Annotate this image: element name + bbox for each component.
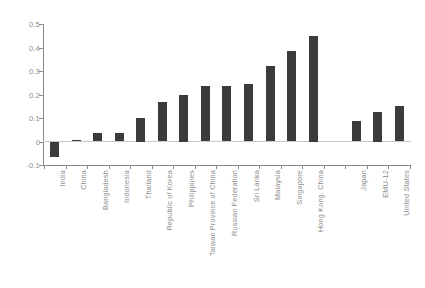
y-axis-tick-mark (39, 118, 43, 119)
bar (179, 95, 188, 142)
bar-slot (345, 24, 367, 165)
x-axis-tick-label: Japan (359, 170, 368, 191)
bar (158, 102, 167, 142)
bar (93, 133, 102, 141)
bar-slot (302, 24, 324, 165)
x-axis-tick-label: EMU-12 (381, 170, 390, 198)
x-axis-tick-mark (130, 165, 131, 169)
bar (201, 86, 210, 141)
x-axis-tick-mark (324, 165, 325, 169)
bar (287, 51, 296, 141)
x-axis-tick-mark (238, 165, 239, 169)
x-axis-tick-label: Philippines (187, 170, 196, 207)
y-axis-tick-mark (39, 95, 43, 96)
bar (266, 66, 275, 141)
bar (50, 142, 59, 157)
x-axis-line (43, 165, 411, 166)
y-axis-tick-label: 0 (0, 137, 40, 146)
bar-slot (259, 24, 281, 165)
x-axis-tick-mark (410, 165, 411, 169)
x-axis-tick-label: Russian Federation (230, 170, 239, 236)
bar (352, 121, 361, 142)
y-axis-tick-label: 0.4 (0, 43, 40, 52)
x-axis-tick-label: Taiwan Province of China (208, 170, 217, 256)
bar (222, 86, 231, 141)
x-axis-tick-mark (173, 165, 174, 169)
x-axis-tick-mark (44, 165, 45, 169)
bar (373, 112, 382, 141)
x-axis-tick-mark (302, 165, 303, 169)
x-axis-tick-mark (281, 165, 282, 169)
y-axis-tick-label: 0.3 (0, 67, 40, 76)
bar-slot (130, 24, 152, 165)
bar (115, 133, 124, 142)
x-axis-tick-mark (388, 165, 389, 169)
x-axis-tick-label: Malaysia (273, 170, 282, 200)
x-axis-tick-label: United States (402, 170, 411, 216)
x-axis-tick-label: Indonesia (122, 170, 131, 203)
y-axis-tick-mark (39, 71, 43, 72)
bar-slot (195, 24, 217, 165)
bar (395, 106, 404, 142)
y-axis-tick-label: -0.1 (0, 161, 40, 170)
bar-slot (87, 24, 109, 165)
y-axis-tick-label: 0.5 (0, 20, 40, 29)
y-axis-tick-mark (39, 142, 43, 143)
x-axis-tick-label: Hong Kong, China (316, 170, 325, 232)
bar-slot (281, 24, 303, 165)
bar-slot (216, 24, 238, 165)
x-axis-tick-label: India (58, 170, 67, 187)
bar-slot (173, 24, 195, 165)
bar (72, 140, 81, 142)
bar (136, 118, 145, 142)
bar-series (44, 24, 410, 165)
bar-slot (238, 24, 260, 165)
bar-slot (367, 24, 389, 165)
bar-chart: 0.50.40.30.20.10-0.1 IndiaChinaBanglades… (0, 0, 425, 288)
x-axis-tick-mark (66, 165, 67, 169)
bar (244, 84, 253, 142)
x-axis-tick-mark (259, 165, 260, 169)
x-axis-tick-mark (195, 165, 196, 169)
x-axis-tick-mark (345, 165, 346, 169)
x-axis-labels: IndiaChinaBangladeshIndonesiaThailandRep… (44, 170, 410, 285)
x-axis-tick-label: China (79, 170, 88, 190)
bar-slot (109, 24, 131, 165)
x-axis-tick-label: Bangladesh (101, 170, 110, 210)
x-axis-tick-label: Thailand (144, 170, 153, 199)
y-axis-tick-mark (39, 48, 43, 49)
bar-slot (152, 24, 174, 165)
x-axis-tick-mark (109, 165, 110, 169)
y-axis-tick-label: 0.2 (0, 90, 40, 99)
x-axis-tick-label: Republic of Korea (165, 170, 174, 231)
x-axis-tick-label: Singapore (295, 170, 304, 205)
x-axis-tick-mark (216, 165, 217, 169)
bar-slot (388, 24, 410, 165)
x-axis-tick-label: Sri Lanka (252, 170, 261, 202)
bar (309, 36, 318, 142)
y-axis-tick-mark (39, 165, 43, 166)
y-axis-tick-label: 0.1 (0, 114, 40, 123)
bar-slot (44, 24, 66, 165)
x-axis-tick-mark (367, 165, 368, 169)
x-axis-tick-mark (87, 165, 88, 169)
bar-slot (66, 24, 88, 165)
y-axis-tick-mark (39, 24, 43, 25)
x-axis-tick-mark (152, 165, 153, 169)
